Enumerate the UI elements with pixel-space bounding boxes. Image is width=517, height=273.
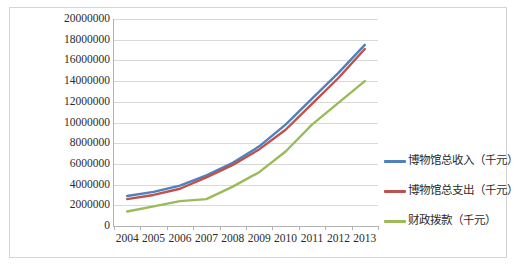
y-tick-label: 18000000 [18, 34, 110, 46]
y-tick-label: 16000000 [18, 54, 110, 66]
y-tick-label: 6000000 [18, 158, 110, 170]
y-tick-label: 0 [18, 220, 110, 232]
gridline [114, 123, 378, 124]
legend-item-2[interactable]: 博物馆总支出（千元） [384, 176, 510, 206]
x-tick-mark [167, 226, 168, 230]
y-tick-label: 2000000 [18, 199, 110, 211]
x-tick-label: 2012 [327, 233, 350, 245]
legend-label: 博物馆总收入（千元） [408, 155, 517, 167]
legend-item-3[interactable]: 财政拨款（千元） [384, 206, 510, 236]
legend-label: 博物馆总支出（千元） [408, 185, 517, 197]
y-tick-label: 10000000 [18, 117, 110, 129]
x-tick-mark [220, 226, 221, 230]
y-tick-label: 4000000 [18, 179, 110, 191]
y-tick-label: 14000000 [18, 75, 110, 87]
x-tick-label: 2004 [116, 233, 139, 245]
x-tick-mark [352, 226, 353, 230]
y-tick-label: 8000000 [18, 137, 110, 149]
x-tick-mark [272, 226, 273, 230]
gridline [114, 205, 378, 206]
chart-legend: 博物馆总收入（千元）博物馆总支出（千元）财政拨款（千元） [384, 146, 510, 236]
x-tick-label: 2008 [221, 233, 244, 245]
gridline [114, 19, 378, 20]
gridline [114, 143, 378, 144]
plot-area [114, 19, 378, 226]
x-tick-label: 2010 [274, 233, 297, 245]
x-tick-label: 2005 [142, 233, 165, 245]
gridline [114, 60, 378, 61]
legend-item-1[interactable]: 博物馆总收入（千元） [384, 146, 510, 176]
x-tick-label: 2009 [248, 233, 271, 245]
legend-swatch-icon [384, 190, 406, 193]
x-tick-mark [193, 226, 194, 230]
legend-label: 财政拨款（千元） [408, 215, 496, 227]
legend-swatch-icon [384, 220, 406, 223]
x-tick-mark [299, 226, 300, 230]
y-tick-label: 12000000 [18, 96, 110, 108]
gridline [114, 164, 378, 165]
x-tick-mark [246, 226, 247, 230]
gridline [114, 185, 378, 186]
gridline [114, 40, 378, 41]
x-tick-mark [114, 226, 115, 230]
x-tick-label: 2011 [301, 233, 324, 245]
x-tick-label: 2006 [169, 233, 192, 245]
gridline [114, 102, 378, 103]
x-tick-label: 2013 [353, 233, 376, 245]
x-tick-label: 2007 [195, 233, 218, 245]
x-tick-mark [140, 226, 141, 230]
legend-swatch-icon [384, 160, 406, 163]
x-tick-mark [378, 226, 379, 230]
gridline [114, 81, 378, 82]
y-tick-label: 20000000 [18, 13, 110, 25]
y-axis-line [113, 19, 114, 227]
x-tick-mark [325, 226, 326, 230]
y-axis-tick-labels: 2000000018000000160000001400000012000000… [14, 0, 110, 273]
